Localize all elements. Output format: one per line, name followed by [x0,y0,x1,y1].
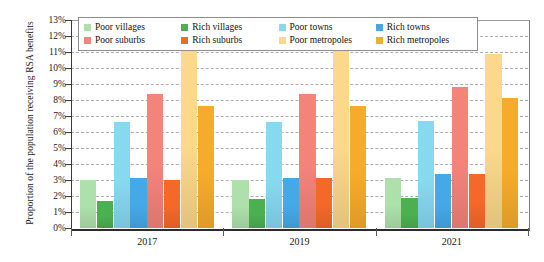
bar-rich-towns-2017 [130,178,146,228]
bar-rich-villages-2021 [401,198,417,228]
bar-rich-metropoles-2019 [350,106,366,228]
legend-swatch-icon [279,37,286,44]
bar-poor-villages-2017 [80,180,96,228]
bar-poor-suburbs-2019 [299,94,315,228]
bar-poor-villages-2019 [232,180,248,228]
bar-rich-metropoles-2017 [198,106,214,228]
x-axis-label-2019: 2019 [290,236,310,247]
bar-rich-villages-2019 [249,199,265,228]
bar-rich-suburbs-2021 [469,174,485,228]
legend-label: Rich towns [387,22,430,33]
legend-row: Poor villagesRich villagesPoor townsRich… [84,21,473,34]
legend-row: Poor suburbsRich suburbsPoor metropolesR… [84,34,473,47]
x-axis-tick-mark [71,228,72,236]
legend: Poor villagesRich villagesPoor townsRich… [78,17,478,51]
legend-label: Poor suburbs [95,35,145,46]
bar-poor-suburbs-2021 [452,87,468,228]
x-axis-label-2021: 2021 [442,236,462,247]
bar-poor-villages-2021 [385,178,401,228]
legend-item-poor-suburbs[interactable]: Poor suburbs [84,34,181,47]
bar-group-2021 [385,20,519,228]
x-axis-tick-mark [223,228,224,236]
legend-label: Poor metropoles [290,35,353,46]
bar-group-2019 [232,20,366,228]
bar-rich-metropoles-2021 [502,98,518,228]
legend-item-rich-suburbs[interactable]: Rich suburbs [181,34,278,47]
x-axis-tick-mark [376,228,377,236]
x-axis-label-2017: 2017 [137,236,157,247]
bar-rich-suburbs-2017 [164,180,180,228]
legend-item-poor-metropoles[interactable]: Poor metropoles [279,34,376,47]
legend-label: Rich villages [192,22,242,33]
legend-label: Rich suburbs [192,35,242,46]
y-axis-tick-label: 11% [49,47,66,57]
legend-swatch-icon [181,24,188,31]
y-axis-tick-label: 12% [49,31,66,41]
bar-poor-metropoles-2019 [333,50,349,228]
legend-swatch-icon [376,37,383,44]
legend-swatch-icon [376,24,383,31]
y-axis-tick-label: 13% [49,15,66,25]
bar-poor-metropoles-2021 [485,54,501,228]
bar-rich-villages-2017 [97,201,113,228]
bar-series-layer [71,20,528,228]
legend-item-poor-villages[interactable]: Poor villages [84,21,181,34]
legend-item-rich-villages[interactable]: Rich villages [181,21,278,34]
legend-label: Rich metropoles [387,35,450,46]
legend-swatch-icon [84,24,91,31]
bar-poor-towns-2017 [114,122,130,228]
bar-poor-towns-2021 [418,121,434,228]
legend-label: Poor towns [290,22,333,33]
x-axis-tick-mark [528,228,529,236]
bar-poor-towns-2019 [266,122,282,228]
legend-item-poor-towns[interactable]: Poor towns [279,21,376,34]
bar-poor-metropoles-2017 [181,50,197,228]
bar-rich-towns-2021 [435,174,451,228]
legend-label: Poor villages [95,22,145,33]
legend-item-rich-towns[interactable]: Rich towns [376,21,473,34]
bar-poor-suburbs-2017 [147,94,163,228]
legend-swatch-icon [84,37,91,44]
bar-group-2017 [80,20,214,228]
bar-rich-towns-2019 [283,178,299,228]
bar-chart: Proportion of the population receiving R… [0,0,544,262]
legend-swatch-icon [279,24,286,31]
bar-rich-suburbs-2019 [316,178,332,228]
legend-item-rich-metropoles[interactable]: Rich metropoles [376,34,473,47]
legend-swatch-icon [181,37,188,44]
y-axis-title: Proportion of the population receiving R… [25,15,35,231]
y-axis-tick-label: 10% [49,63,66,73]
